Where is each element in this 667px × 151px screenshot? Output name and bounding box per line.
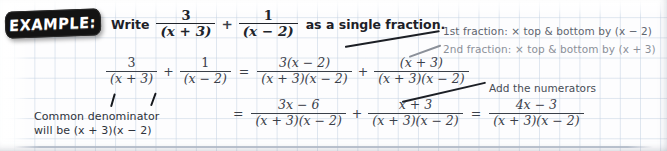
working-line-2: = 3x − 6 (x + 3)(x − 2) + x + 3 (x + 3)(… bbox=[227, 99, 586, 128]
w1-plus-1: + bbox=[159, 64, 177, 79]
example-badge: EXAMPLE: bbox=[5, 8, 102, 39]
w2-fraction-3-numerator: 4x − 3 bbox=[512, 99, 561, 113]
annotation-first-fraction: 1st fraction: × top & bottom by (x − 2) bbox=[443, 25, 652, 37]
w1-fraction-1-numerator: 3 bbox=[124, 57, 140, 71]
prompt-fraction-1-denominator: (x + 3) bbox=[156, 23, 215, 39]
annotation-add-numerators: Add the numerators bbox=[489, 82, 596, 94]
example-panel: EXAMPLE: Write 3 (x + 3) + 1 (x − 2) as … bbox=[0, 0, 667, 151]
w2-fraction-2-denominator: (x + 3)(x − 2) bbox=[368, 113, 462, 128]
w1-equals-1: = bbox=[233, 64, 255, 79]
prompt-fraction-1-numerator: 3 bbox=[177, 9, 194, 23]
problem-lead-text: Write bbox=[111, 17, 149, 32]
w1-fraction-2-denominator: (x − 2) bbox=[180, 71, 231, 86]
w2-fraction-2: x + 3 (x + 3)(x − 2) bbox=[368, 99, 462, 128]
problem-statement: Write 3 (x + 3) + 1 (x − 2) as a single … bbox=[111, 9, 445, 39]
w2-equals-2: = bbox=[465, 106, 487, 121]
w2-equals-1: = bbox=[227, 106, 249, 121]
w2-fraction-3-denominator: (x + 3)(x − 2) bbox=[489, 113, 583, 128]
w2-fraction-3: 4x − 3 (x + 3)(x − 2) bbox=[489, 99, 583, 128]
annotation-second-fraction: 2nd fraction: × top & bottom by (x + 3) bbox=[443, 43, 656, 55]
working-line-1: 3 (x + 3) + 1 (x − 2) = 3(x − 2) (x + 3)… bbox=[104, 57, 471, 86]
w2-fraction-1-numerator: 3x − 6 bbox=[274, 99, 323, 113]
bottom-divider bbox=[14, 146, 653, 148]
w1-fraction-1: 3 (x + 3) bbox=[106, 57, 157, 86]
w1-fraction-4-numerator: (x + 3) bbox=[396, 57, 447, 71]
pointer-tick-left-denominator bbox=[110, 93, 116, 107]
w1-fraction-3: 3(x − 2) (x + 3)(x − 2) bbox=[257, 57, 351, 86]
w1-fraction-4: (x + 3) (x + 3)(x − 2) bbox=[374, 57, 468, 86]
w1-plus-2: + bbox=[354, 64, 372, 79]
w2-fraction-1: 3x − 6 (x + 3)(x − 2) bbox=[251, 99, 345, 128]
annotation-common-denominator: Common denominator will be (x + 3)(x − 2… bbox=[34, 110, 179, 138]
pointer-tick-right-denominator bbox=[150, 92, 157, 106]
w2-fraction-1-denominator: (x + 3)(x − 2) bbox=[251, 113, 345, 128]
example-badge-label: EXAMPLE: bbox=[9, 13, 97, 33]
prompt-fraction-1: 3 (x + 3) bbox=[156, 9, 215, 39]
problem-tail-text: as a single fraction. bbox=[306, 17, 446, 32]
prompt-fraction-2-denominator: (x − 2) bbox=[239, 23, 298, 39]
prompt-plus-operator: + bbox=[217, 16, 236, 32]
w1-fraction-3-denominator: (x + 3)(x − 2) bbox=[257, 71, 351, 86]
w1-fraction-4-denominator: (x + 3)(x − 2) bbox=[374, 71, 468, 86]
w2-plus-1: + bbox=[348, 106, 366, 121]
w1-fraction-2: 1 (x − 2) bbox=[180, 57, 231, 86]
w1-fraction-3-numerator: 3(x − 2) bbox=[275, 57, 334, 71]
prompt-fraction-2: 1 (x − 2) bbox=[239, 9, 298, 39]
w1-fraction-2-numerator: 1 bbox=[197, 57, 213, 71]
w1-fraction-1-denominator: (x + 3) bbox=[106, 71, 157, 86]
prompt-fraction-2-numerator: 1 bbox=[260, 9, 277, 23]
